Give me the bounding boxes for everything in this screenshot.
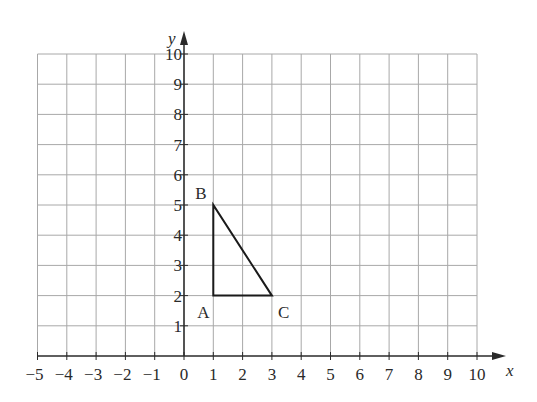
y-tick-label: 1 [174,317,183,336]
y-tick-label: 8 [174,105,183,124]
x-axis-arrow-icon [492,352,506,360]
y-tick-label: 9 [174,75,183,94]
x-tick-label: −2 [113,365,131,384]
y-tick-label: 5 [174,196,183,215]
x-tick-label: 4 [297,365,306,384]
x-axis-label: x [505,361,514,380]
y-tick-label: 4 [174,226,183,245]
y-tick-label: 2 [174,287,183,306]
y-tick-label: 3 [174,256,183,275]
y-axis-arrow-icon [180,31,188,45]
x-tick-label: −5 [25,365,43,384]
grid-lines [38,54,478,356]
x-tick-label: 6 [356,365,365,384]
x-tick-label: −3 [84,365,102,384]
y-axis-tick-labels: 12345678910 [165,45,183,336]
vertex-label-b: B [195,184,206,203]
vertex-label-c: C [278,303,289,322]
coordinate-grid: −5−4−3−2−1012345678910 12345678910 x y A… [0,0,537,402]
x-tick-label: 0 [180,365,189,384]
x-tick-label: 5 [326,365,335,384]
y-tick-label: 6 [174,166,183,185]
y-tick-label: 7 [174,136,183,155]
x-tick-label: 10 [469,365,486,384]
vertex-label-a: A [197,303,210,322]
x-tick-label: 2 [238,365,247,384]
x-tick-label: 1 [209,365,218,384]
x-axis-tick-labels: −5−4−3−2−1012345678910 [25,365,485,384]
x-tick-label: 9 [443,365,452,384]
x-tick-label: −1 [143,365,161,384]
x-tick-label: 3 [268,365,277,384]
x-tick-label: 7 [385,365,394,384]
x-tick-label: −4 [55,365,74,384]
y-axis-label: y [166,29,176,48]
x-tick-label: 8 [414,365,423,384]
